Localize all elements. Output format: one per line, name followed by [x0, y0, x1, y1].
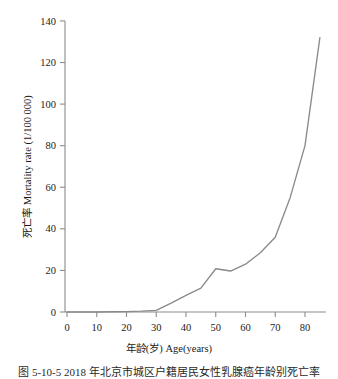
x-tick-label: 10: [92, 322, 103, 333]
y-tick-label: 120: [40, 57, 56, 68]
chart-series: [67, 38, 320, 312]
x-tick-label: 60: [240, 322, 251, 333]
x-tick-label: 40: [181, 322, 192, 333]
figure-caption: 图 5-10-5 2018 年北京市城区户籍居民女性乳腺癌年龄别死亡率: [0, 363, 338, 379]
x-tick-label: 30: [151, 322, 162, 333]
y-tick-label: 40: [46, 223, 57, 234]
chart-axes: [60, 21, 326, 317]
y-tick-label: 140: [40, 16, 56, 27]
x-tick-label: 70: [270, 322, 281, 333]
y-axis-label: 死亡率 Mortality rate (1/100 000): [19, 42, 34, 292]
y-tick-label: 0: [51, 307, 56, 318]
y-tick-label: 100: [40, 99, 56, 110]
x-tick-label: 50: [211, 322, 222, 333]
x-tick-label: 20: [121, 322, 132, 333]
y-tick-label: 60: [46, 182, 57, 193]
chart-tick-labels: 02040608010012014001020304050607080: [40, 16, 310, 333]
x-axis-label: 年龄(岁) Age(years): [0, 340, 338, 355]
x-tick-label: 80: [300, 322, 311, 333]
y-tick-label: 20: [46, 265, 57, 276]
x-tick-label: 0: [64, 322, 69, 333]
y-tick-label: 80: [46, 140, 57, 151]
data-line-mortality-rate: [67, 38, 320, 312]
